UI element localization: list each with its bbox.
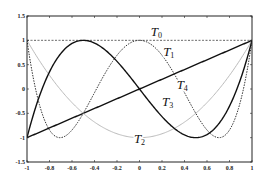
y-tick-label: 0.5	[18, 62, 26, 68]
x-tick-label: 0.4	[181, 165, 189, 171]
series-label-t4: T4	[177, 77, 188, 93]
labels-layer: T0T0T1T1T2T2T3T3T4T4	[134, 24, 188, 146]
series-label-t2: T2	[134, 131, 145, 147]
x-tick-label: 0.2	[158, 165, 166, 171]
series-label-t3: T3	[162, 94, 173, 110]
y-tick-label: -1	[20, 135, 25, 141]
series-layer	[27, 40, 252, 137]
x-tick-label: 0.8	[226, 165, 234, 171]
series-label-t1: T1	[163, 44, 174, 60]
series-label-t0: T0	[151, 24, 162, 40]
x-tick-label: 1	[251, 165, 254, 171]
x-tick-label: -0.6	[67, 165, 77, 171]
y-tick-label: 0	[22, 86, 25, 92]
x-tick-label: -0.4	[90, 165, 100, 171]
x-tick-label: -1	[25, 165, 30, 171]
x-tick-label: 0.6	[203, 165, 211, 171]
y-tick-label: -0.5	[16, 110, 26, 116]
ticks-layer: -1-0.8-0.6-0.4-0.200.20.40.60.81-1.5-1-0…	[16, 13, 254, 171]
x-tick-label: 0	[138, 165, 141, 171]
y-tick-label: 1.5	[18, 13, 26, 19]
x-tick-label: -0.8	[45, 165, 55, 171]
y-tick-label: 1	[22, 37, 25, 43]
x-tick-label: -0.2	[112, 165, 122, 171]
chebyshev-chart: -1-0.8-0.6-0.4-0.200.20.40.60.81-1.5-1-0…	[0, 0, 267, 180]
y-tick-label: -1.5	[16, 159, 26, 165]
